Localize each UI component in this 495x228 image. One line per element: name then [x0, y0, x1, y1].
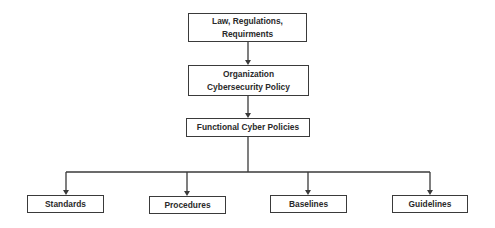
- node-label: Organization Cybersecurity Policy: [207, 68, 290, 92]
- node-label: Baselines: [289, 198, 328, 210]
- policy-hierarchy-diagram: Law, Regulations, Requirments Organizati…: [0, 0, 495, 228]
- node-guidelines: Guidelines: [392, 195, 468, 213]
- node-label: Guidelines: [409, 198, 452, 210]
- node-law-regulations: Law, Regulations, Requirments: [188, 13, 307, 42]
- node-procedures: Procedures: [149, 196, 226, 214]
- node-org-cybersecurity-policy: Organization Cybersecurity Policy: [188, 65, 309, 96]
- node-label: Law, Regulations, Requirments: [212, 15, 283, 39]
- node-label: Procedures: [164, 199, 210, 211]
- node-baselines: Baselines: [270, 195, 347, 213]
- node-label: Functional Cyber Policies: [197, 121, 299, 133]
- node-standards: Standards: [27, 195, 104, 213]
- node-label: Standards: [45, 198, 86, 210]
- node-functional-cyber-policies: Functional Cyber Policies: [186, 118, 310, 137]
